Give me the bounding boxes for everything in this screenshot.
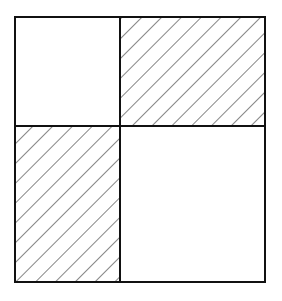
grid-diagram — [0, 0, 282, 301]
cell-top-right-hatched — [120, 17, 265, 126]
cell-bottom-left-hatched — [15, 126, 120, 282]
cell-bottom-right — [120, 126, 265, 282]
cell-top-left — [15, 17, 120, 126]
